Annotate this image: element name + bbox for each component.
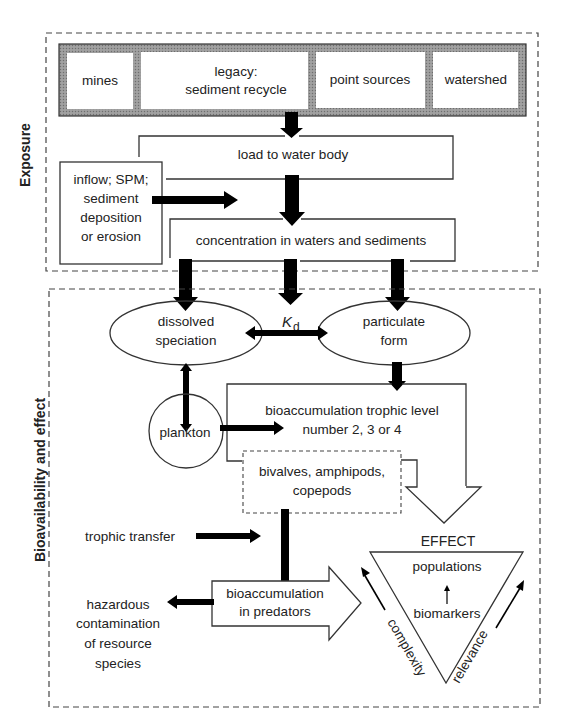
arrow-particulate-to-bioaccum: [388, 362, 406, 391]
effect-populations: populations: [412, 559, 481, 574]
bioaccum-trophic-box-bottom: [227, 458, 242, 461]
exposure-section-label: Exposure: [17, 123, 33, 187]
source-watershed-label: watershed: [444, 72, 507, 87]
trophic-transfer-label: trophic transfer: [85, 529, 176, 544]
dissolved-line-2: speciation: [156, 333, 217, 348]
arrow-dissolved-plankton: [180, 363, 192, 432]
arrow-concentration-to-kd: [278, 259, 303, 305]
source-legacy-box: [141, 52, 308, 109]
arrow-invertebrates-to-predators: [281, 509, 289, 581]
hazardous-line-3: of resource: [84, 636, 152, 651]
particulate-line-2: form: [381, 333, 408, 348]
kd-symbol: K: [282, 313, 293, 330]
relevance-arrow-line: [496, 588, 520, 628]
effect-title: EFFECT: [421, 533, 476, 549]
inflow-line-2: sediment: [84, 191, 139, 206]
dissolved-line-1: dissolved: [158, 314, 214, 329]
effect-biomarkers: biomarkers: [414, 606, 481, 621]
effect-complexity-label: complexity: [384, 616, 429, 679]
concentration-label: concentration in waters and sediments: [196, 233, 427, 248]
biomarkers-to-populations-arrowhead: [444, 585, 450, 591]
hollow-arrow-to-effect: [401, 460, 481, 523]
sources-bar: mines legacy: sediment recycle point sou…: [59, 44, 526, 116]
arrow-trophic-transfer: [196, 529, 261, 543]
inflow-line-1: inflow; SPM;: [73, 172, 148, 187]
plankton-label: plankton: [159, 425, 210, 440]
hazardous-line-4: species: [95, 656, 141, 671]
particulate-line-1: particulate: [363, 314, 425, 329]
bioaccum-trophic-line-1: bioaccumulation trophic level: [265, 403, 438, 418]
arrow-plankton-to-bioaccum: [220, 421, 284, 435]
bioaccum-predators-line-1: bioaccumulation: [226, 586, 324, 601]
load-label: load to water body: [238, 147, 349, 162]
invertebrates-line-2: copepods: [293, 483, 352, 498]
source-point-sources-label: point sources: [330, 72, 411, 87]
arrow-concentration-to-dissolved: [173, 259, 198, 311]
complexity-arrow-line: [364, 574, 385, 610]
arrow-inflow-to-concentration: [152, 191, 238, 209]
hazardous-line-2: contamination: [76, 616, 160, 631]
invertebrates-line-1: bivalves, amphipods,: [259, 464, 385, 479]
complexity-arrowhead: [361, 567, 370, 577]
bioaccum-trophic-line-2: number 2, 3 or 4: [302, 422, 402, 437]
hazardous-line-1: hazardous: [86, 597, 149, 612]
effect-relevance-label: relevance: [449, 627, 491, 685]
arrow-predators-to-hazardous: [167, 595, 214, 609]
bioaccum-predators-line-2: in predators: [239, 604, 311, 619]
inflow-line-4: or erosion: [81, 229, 141, 244]
inflow-line-3: deposition: [80, 210, 142, 225]
invertebrates-box: [243, 451, 401, 513]
source-mines-label: mines: [82, 73, 118, 88]
bioavailability-section-label: Bioavailability and effect: [32, 398, 48, 562]
source-legacy-label-2: sediment recycle: [185, 82, 286, 97]
diagram-canvas: Exposure mines legacy: sediment recycle …: [0, 0, 571, 728]
source-legacy-label-1: legacy:: [215, 64, 258, 79]
arrow-concentration-to-particulate: [385, 259, 410, 311]
